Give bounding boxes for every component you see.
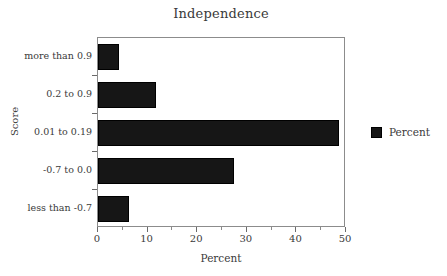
x-axis-minor-tick-mark xyxy=(171,227,172,230)
bar-row xyxy=(98,82,344,109)
y-axis-tick-label: less than -0.7 xyxy=(28,203,93,213)
x-axis-tick-mark xyxy=(345,227,346,232)
x-axis-tick-label: 30 xyxy=(231,233,261,244)
y-axis-tick-label: 0.2 to 0.9 xyxy=(46,89,92,99)
plot-area xyxy=(97,37,345,227)
bar-percent[interactable] xyxy=(98,120,339,147)
y-axis-title: Score xyxy=(9,92,20,152)
x-axis-tick-label: 50 xyxy=(330,233,360,244)
x-axis-minor-tick-mark xyxy=(320,227,321,230)
legend-label-percent: Percent xyxy=(389,126,430,138)
bar-percent[interactable] xyxy=(98,44,119,71)
bars-layer xyxy=(98,38,344,226)
y-axis-tick-mark xyxy=(92,151,97,152)
bar-percent[interactable] xyxy=(98,196,129,223)
y-axis-tick-label: 0.01 to 0.19 xyxy=(34,127,92,137)
chart-figure: Independence Score more than 0.90.2 to 0… xyxy=(0,0,447,276)
x-axis-tick-label: 10 xyxy=(132,233,162,244)
y-axis-tick-mark xyxy=(92,113,97,114)
x-axis-tick-mark xyxy=(147,227,148,232)
x-axis-tick-label: 40 xyxy=(280,233,310,244)
x-axis-tick-mark xyxy=(246,227,247,232)
bar-percent[interactable] xyxy=(98,82,156,109)
x-axis-tick-label: 20 xyxy=(181,233,211,244)
legend: Percent xyxy=(371,126,430,138)
x-axis-minor-tick-mark xyxy=(122,227,123,230)
bar-row xyxy=(98,120,344,147)
legend-swatch-percent xyxy=(371,127,382,138)
bar-percent[interactable] xyxy=(98,158,234,185)
x-axis-tick-label: 0 xyxy=(82,233,112,244)
y-axis-tick-mark xyxy=(92,189,97,190)
bar-row xyxy=(98,196,344,223)
bar-row xyxy=(98,44,344,71)
x-axis-minor-tick-mark xyxy=(221,227,222,230)
x-axis-tick-mark xyxy=(295,227,296,232)
chart-title: Independence xyxy=(97,6,345,21)
x-axis-minor-tick-mark xyxy=(271,227,272,230)
y-axis-tick-label: more than 0.9 xyxy=(24,51,92,61)
y-axis-tick-label: -0.7 to 0.0 xyxy=(43,165,92,175)
y-axis-tick-mark xyxy=(92,75,97,76)
x-axis-tick-mark xyxy=(97,227,98,232)
x-axis-title: Percent xyxy=(97,252,345,264)
x-axis-tick-mark xyxy=(196,227,197,232)
bar-row xyxy=(98,158,344,185)
